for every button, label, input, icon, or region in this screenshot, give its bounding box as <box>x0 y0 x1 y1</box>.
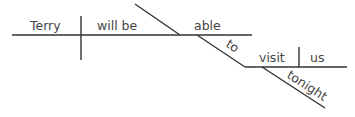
predicate-adjective-word: able <box>194 18 221 33</box>
predicate-slash <box>135 4 180 35</box>
infinitive-marker-word: to <box>223 36 242 55</box>
verb-word: will be <box>97 18 138 33</box>
object-word: us <box>310 50 324 65</box>
sentence-diagram: Terry will be able to visit us tonight <box>0 0 355 117</box>
infinitive-verb-word: visit <box>259 50 285 65</box>
subject-word: Terry <box>29 18 61 33</box>
